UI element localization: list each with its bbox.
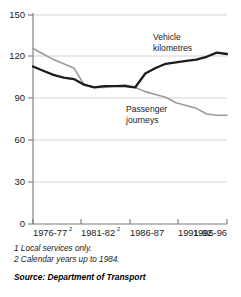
chart-figure: 150 120 90 60 30 0 1976-77 2 1981-82 2 1… <box>0 0 241 297</box>
x-tick-labels: 1976-77 2 1981-82 2 1986-87 1991-92 1995… <box>33 226 227 238</box>
line-chart-svg: 150 120 90 60 30 0 1976-77 2 1981-82 2 1… <box>0 0 241 240</box>
series-vehicle-kilometres <box>33 53 227 88</box>
footnote-1: 1 Local services only. <box>14 243 236 254</box>
x-tick-label-1995-96: 1995-96 <box>193 228 227 238</box>
annotation-vehicle-kilometres-line2: kilometres <box>153 43 192 53</box>
y-tick-label-150: 150 <box>9 9 25 20</box>
y-tick-label-0: 0 <box>20 218 25 229</box>
annotation-passenger-journeys-line1: Passenger <box>126 104 167 114</box>
y-tick-label-120: 120 <box>9 50 25 61</box>
y-tick-label-60: 60 <box>14 134 25 145</box>
gridlines <box>33 15 227 182</box>
x-tick-label-1986-87: 1986-87 <box>130 228 164 238</box>
x-tick-superscript-2: 2 <box>117 226 120 232</box>
y-tick-label-30: 30 <box>14 176 25 187</box>
annotation-passenger-journeys-line2: journeys <box>125 115 158 125</box>
x-tick-superscript-1: 2 <box>69 226 72 232</box>
y-tick-labels: 150 120 90 60 30 0 <box>9 9 25 229</box>
chart-plot-area: 150 120 90 60 30 0 1976-77 2 1981-82 2 1… <box>0 0 241 240</box>
annotation-vehicle-kilometres-line1: Vehicle <box>153 32 181 42</box>
x-tick-label-1981-82: 1981-82 <box>81 228 115 238</box>
footnote-2: 2 Calendar years up to 1984. <box>14 254 236 265</box>
x-tick-label-1976-77: 1976-77 <box>33 228 67 238</box>
series-annotations: Vehicle kilometres Passenger journeys <box>125 32 192 125</box>
source-line: Source: Department of Transport <box>14 272 236 282</box>
y-tick-label-90: 90 <box>14 92 25 103</box>
footnotes-block: 1 Local services only. 2 Calendar years … <box>14 243 236 282</box>
